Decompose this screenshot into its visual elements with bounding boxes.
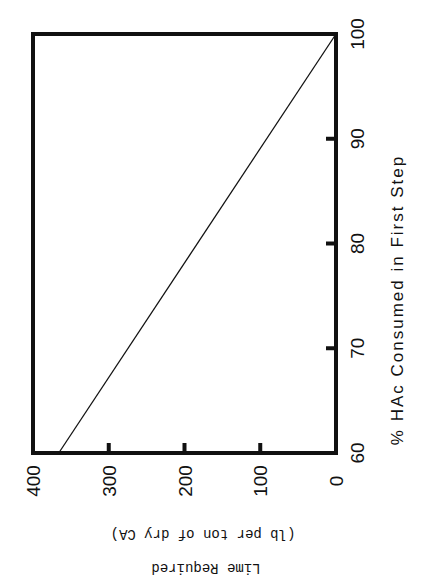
svg-text:100: 100: [250, 465, 271, 497]
svg-text:80: 80: [347, 233, 368, 254]
tick-labels: 010020030040060708090100: [23, 18, 368, 497]
x-axis-label: % HAc Consumed in First Step: [388, 155, 407, 445]
svg-text:60: 60: [347, 442, 368, 463]
svg-text:200: 200: [175, 465, 196, 497]
svg-text:70: 70: [347, 338, 368, 359]
axis-ticks: [109, 139, 336, 453]
chart: 010020030040060708090100 % HAc Consumed …: [0, 0, 421, 585]
svg-text:300: 300: [99, 465, 120, 497]
plot-frame: [33, 34, 336, 453]
svg-text:400: 400: [23, 465, 44, 497]
y-axis-label: Lime Required: [151, 560, 260, 576]
data-line: [59, 34, 336, 453]
svg-text:90: 90: [347, 128, 368, 149]
y-axis-sublabel: (lb per ton of dry CA): [111, 526, 296, 542]
svg-text:100: 100: [347, 18, 368, 50]
svg-text:0: 0: [326, 476, 347, 487]
